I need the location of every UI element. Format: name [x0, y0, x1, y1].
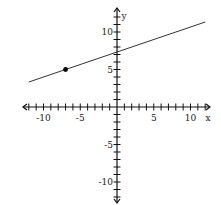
y-tick-label: -10	[99, 177, 114, 187]
x-axis-label: x	[205, 113, 210, 123]
y-axis-label: y	[120, 11, 127, 21]
x-tick-label: 5	[151, 113, 157, 123]
tick-labels: -10-5510105-5-10xy	[36, 11, 210, 187]
y-tick-label: -5	[104, 140, 113, 150]
coordinate-plane: -10-5510105-5-10xy	[0, 0, 221, 205]
x-tick-label: -5	[76, 113, 85, 123]
data-points	[63, 67, 68, 72]
y-tick-label: 10	[102, 27, 114, 37]
point-marker	[63, 67, 68, 72]
y-tick-label: 5	[107, 65, 113, 75]
x-tick-label: -10	[36, 113, 51, 123]
x-tick-label: 10	[185, 113, 197, 123]
